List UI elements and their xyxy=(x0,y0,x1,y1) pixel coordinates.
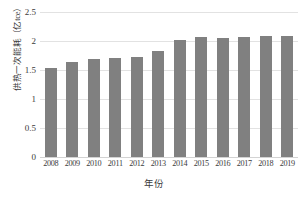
y-axis-tick-label: 2 xyxy=(32,36,37,46)
bar[interactable] xyxy=(152,51,164,157)
x-axis-tick-label: 2013 xyxy=(148,159,170,168)
y-axis-tick-label: 1 xyxy=(32,94,37,104)
y-axis-tick-label: 1.5 xyxy=(25,65,36,75)
bar[interactable] xyxy=(45,68,57,157)
bar-chart: 供热一次能耗（亿tce） 00.511.522.5 20082009201020… xyxy=(0,0,307,198)
x-axis-tick-label: 2018 xyxy=(255,159,277,168)
bar-slot xyxy=(234,12,256,157)
x-axis-tick-label: 2012 xyxy=(126,159,148,168)
x-axis-tick-label: 2016 xyxy=(212,159,234,168)
bar[interactable] xyxy=(260,36,272,157)
plot-area: 00.511.522.5 xyxy=(40,12,298,157)
bar-slot xyxy=(40,12,62,157)
x-axis-tick-label: 2019 xyxy=(277,159,299,168)
bar-slot xyxy=(255,12,277,157)
x-axis-tick-label: 2015 xyxy=(191,159,213,168)
bars-container xyxy=(40,12,298,157)
bar[interactable] xyxy=(88,59,100,157)
bar[interactable] xyxy=(195,37,207,157)
y-axis-tick-label: 0.5 xyxy=(25,123,36,133)
x-axis-title: 年份 xyxy=(0,176,307,190)
bar[interactable] xyxy=(281,36,293,157)
bar-slot xyxy=(169,12,191,157)
bar-slot xyxy=(105,12,127,157)
x-axis-tick-label: 2010 xyxy=(83,159,105,168)
y-axis-tick-label: 0 xyxy=(32,152,37,162)
bar-slot xyxy=(62,12,84,157)
x-axis-tick-label: 2009 xyxy=(62,159,84,168)
x-axis-tick-label: 2014 xyxy=(169,159,191,168)
bar[interactable] xyxy=(238,37,250,157)
bar[interactable] xyxy=(66,62,78,157)
bar-slot xyxy=(212,12,234,157)
x-axis-tick-labels: 2008200920102011201220132014201520162017… xyxy=(40,159,298,168)
bar-slot xyxy=(126,12,148,157)
y-axis-tick-label: 2.5 xyxy=(25,7,36,17)
x-axis-tick-label: 2011 xyxy=(105,159,127,168)
bar[interactable] xyxy=(109,58,121,157)
bar-slot xyxy=(191,12,213,157)
bar[interactable] xyxy=(217,38,229,157)
y-axis-title: 供热一次能耗（亿tce） xyxy=(10,0,24,102)
bar[interactable] xyxy=(131,57,143,157)
bar-slot xyxy=(148,12,170,157)
bar-slot xyxy=(277,12,299,157)
bar[interactable] xyxy=(174,40,186,157)
x-axis-tick-label: 2008 xyxy=(40,159,62,168)
x-axis-tick-label: 2017 xyxy=(234,159,256,168)
gridline: 0 xyxy=(40,157,298,158)
bar-slot xyxy=(83,12,105,157)
